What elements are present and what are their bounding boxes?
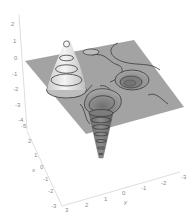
y-axis-label: y	[123, 199, 128, 205]
y-tick: 3	[65, 207, 69, 213]
y-tick: -1	[141, 185, 147, 191]
x-tick: -1	[43, 176, 49, 182]
z-axis-line	[19, 15, 27, 130]
y-axis-line	[62, 172, 180, 206]
small-bump	[83, 49, 99, 55]
x-axis-ticks: 2 1 0 -1 -2 -3 x	[28, 138, 57, 209]
x-tick: 0	[40, 164, 44, 170]
x-tick: -2	[48, 188, 54, 194]
z-tick: 2	[11, 21, 15, 27]
y-tick: 2	[85, 202, 89, 208]
z-tick: -2	[13, 86, 19, 92]
x-tick: -3	[51, 203, 57, 209]
y-tick: -3	[181, 174, 187, 180]
z-tick: -1	[12, 71, 18, 77]
z-tick: 0	[14, 55, 18, 61]
y-tick: -2	[161, 180, 167, 186]
z-tick: 1	[13, 38, 17, 44]
y-tick: 1	[104, 196, 108, 202]
y-axis-ticks: 3 2 1 0 -1 -2 -3 y	[65, 174, 187, 213]
z-tick: -3	[15, 102, 21, 108]
surface-plot: 2 1 0 -1 -2 -3 -4 -5 2 1 0 -1 -2 -3 x 3 …	[0, 0, 196, 222]
z-tick: -5	[21, 123, 27, 129]
z-axis-ticks: 2 1 0 -1 -2 -3 -4 -5	[11, 21, 27, 129]
trough-cone	[89, 110, 113, 159]
x-axis-label: x	[31, 167, 36, 173]
y-tick: 0	[122, 190, 126, 196]
right-dip	[115, 70, 149, 90]
